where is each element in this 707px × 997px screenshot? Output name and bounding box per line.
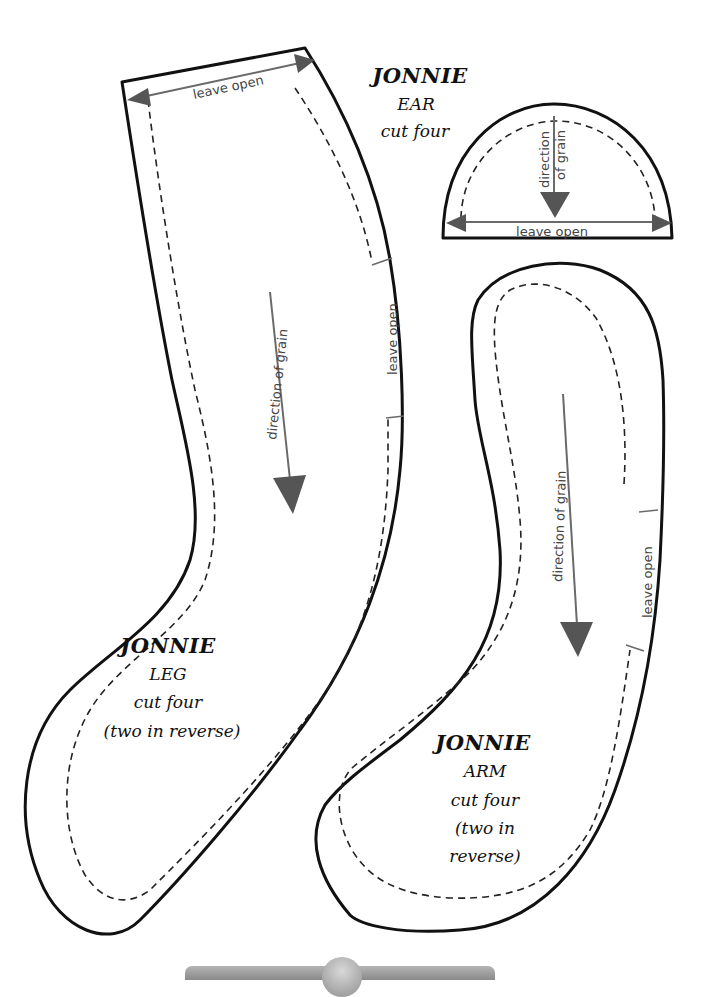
arm-side-open-label: leave open xyxy=(640,546,655,618)
ear-piece: leave open direction of grain JONNIE EAR… xyxy=(368,63,672,239)
leg-title: JONNIE xyxy=(116,633,216,658)
leg-note: (two in reverse) xyxy=(104,721,241,741)
page-footer-knob xyxy=(322,957,362,997)
leg-part: LEG xyxy=(148,664,186,684)
ear-title: JONNIE xyxy=(368,63,468,88)
arm-part: ARM xyxy=(462,761,507,781)
arm-title: JONNIE xyxy=(431,730,531,755)
arm-note-1: (two in xyxy=(455,818,515,838)
ear-grain-label-1: direction xyxy=(537,131,552,188)
leg-side-open-label: leave open xyxy=(385,303,400,375)
arm-instruction: cut four xyxy=(451,790,520,810)
ear-grain-label-2: of grain xyxy=(553,130,568,180)
ear-open-label: leave open xyxy=(516,224,588,239)
leg-instruction: cut four xyxy=(134,692,203,712)
ear-part: EAR xyxy=(396,94,435,114)
ear-instruction: cut four xyxy=(381,121,450,141)
arm-note-2: reverse) xyxy=(449,846,520,866)
